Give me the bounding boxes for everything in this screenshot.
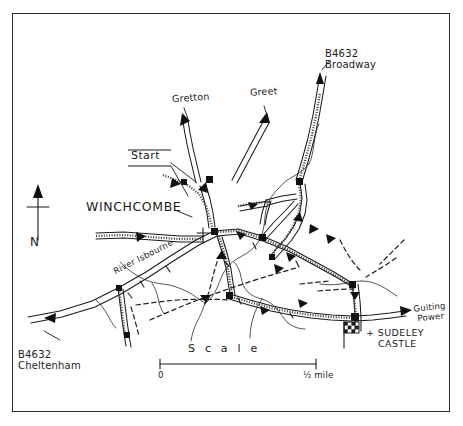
sudeley-cross-marker: + [366, 327, 374, 338]
scale-max-label: ½ mile [303, 371, 333, 381]
place-label-guiting-power: Guiting Power [413, 301, 447, 323]
church-cross-icon [197, 228, 209, 242]
arrow-greet [259, 112, 270, 123]
place-label-winchcombe: WINCHCOMBE [86, 200, 181, 214]
road-network [28, 74, 406, 347]
place-label-sudeley-castle: + SUDELEY CASTLE [366, 328, 424, 349]
start-label: Start [131, 150, 160, 162]
cheltenham-road-number: B4632 [18, 349, 51, 360]
broadway-road-number: B4632 [325, 48, 358, 59]
broadway-place-name: Broadway [325, 59, 376, 70]
cheltenham-place-name: Cheltenham [18, 360, 81, 371]
sudeley-line-1: + SUDELEY [366, 327, 424, 338]
arrow-guiting-power [400, 306, 412, 316]
place-label-greet: Greet [250, 86, 278, 98]
scale-caption: S c a l e [188, 343, 260, 355]
place-label-broadway: B4632 Broadway [325, 48, 376, 70]
castle-flag-icon [344, 322, 359, 348]
sketch-map: Gretton Greet B4632 Broadway B4632 Chelt… [0, 0, 463, 426]
route-direction-arrows [44, 72, 412, 323]
arrow-north-broadway [316, 72, 324, 84]
arrow-cheltenham [44, 313, 56, 323]
scale-bar [160, 359, 316, 369]
north-arrow-icon [27, 184, 49, 240]
sudeley-line-2: CASTLE [366, 339, 424, 350]
place-label-cheltenham: B4632 Cheltenham [18, 349, 81, 371]
scale-min-label: 0 [158, 371, 164, 381]
north-label: N [30, 236, 39, 249]
sudeley-name: SUDELEY [378, 327, 424, 338]
